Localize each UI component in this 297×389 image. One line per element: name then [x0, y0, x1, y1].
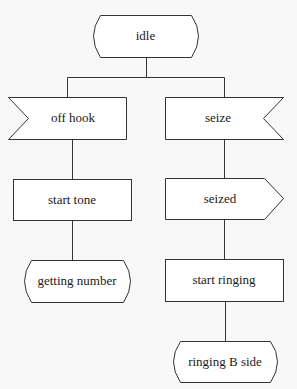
output-seized-label: seized [165, 178, 275, 219]
state-idle-label: idle [86, 15, 205, 57]
state-ringing-b-side-label: ringing B side [166, 341, 284, 382]
task-start-tone-label: start tone [13, 179, 131, 220]
task-start-ringing-label: start ringing [165, 259, 283, 301]
diagram-canvas: idle off hook seize start tone seized ge… [0, 0, 297, 389]
state-getting-number-label: getting number [17, 260, 137, 302]
input-off-hook-label: off hook [20, 97, 126, 139]
input-seize-label: seize [165, 97, 271, 139]
